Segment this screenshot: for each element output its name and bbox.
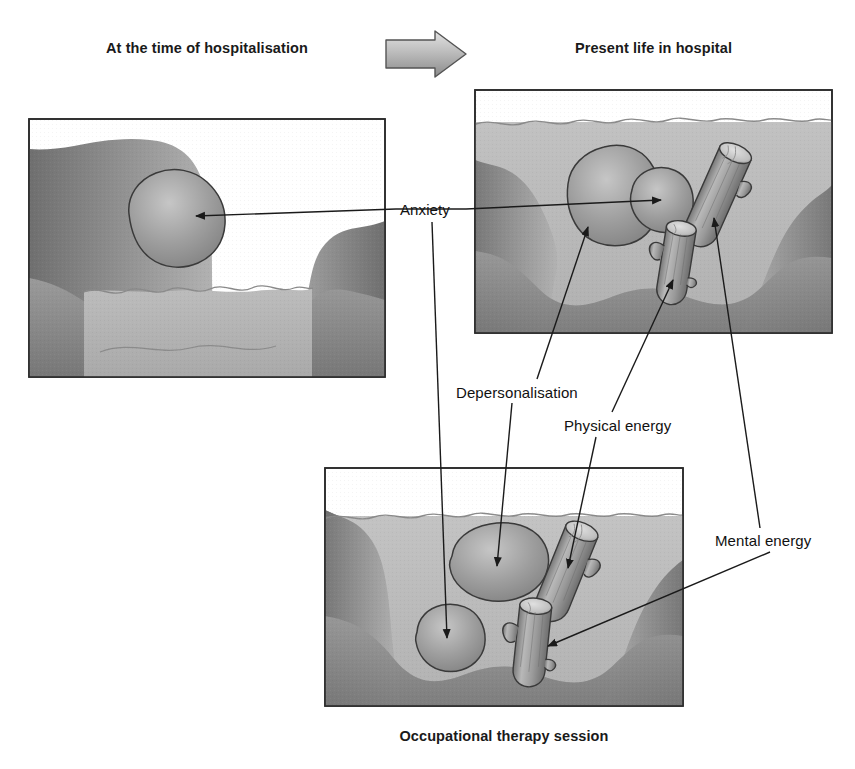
object-blob-depersonalisation-bottom — [450, 523, 549, 601]
object-blob-anxiety-bottom — [416, 604, 486, 671]
transition-arrow-icon — [386, 31, 466, 77]
panel-hospitalisation — [29, 119, 385, 377]
panel-occupational-therapy — [325, 468, 683, 706]
diagram-canvas: At the time of hospitalisation Present l… — [0, 0, 855, 769]
diagram-artwork — [0, 0, 855, 769]
panel-present-life — [475, 90, 832, 333]
